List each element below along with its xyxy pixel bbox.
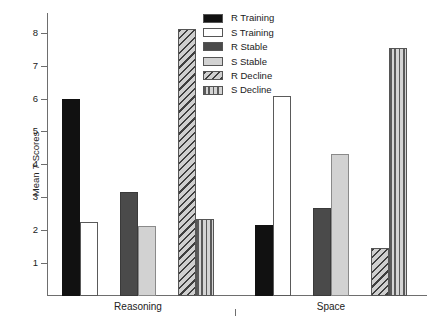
y-axis-tick-label-3: 3: [33, 193, 38, 203]
y-axis-tick-7: [41, 66, 47, 67]
bar-space-s-stable: [331, 154, 349, 296]
bar-space-r-training: [255, 225, 273, 296]
bar-space-r-decline: [371, 248, 389, 296]
y-axis-tick-label-5: 5: [33, 127, 38, 137]
bar-reasoning-r-training: [62, 99, 80, 296]
y-axis-tick-3: [41, 197, 47, 198]
legend-item-s-stable[interactable]: S Stable: [203, 54, 313, 68]
x-axis-group-label-reasoning: Reasoning: [114, 301, 162, 312]
legend-label: S Training: [231, 28, 274, 38]
bar-reasoning-s-training: [80, 222, 98, 296]
y-axis-tick-label-4: 4: [33, 160, 38, 170]
legend-item-r-decline[interactable]: R Decline: [203, 69, 313, 83]
bar-reasoning-r-decline: [178, 29, 196, 296]
legend-item-r-stable[interactable]: R Stable: [203, 40, 313, 54]
legend: R TrainingS TrainingR StableS StableR De…: [203, 11, 313, 97]
bar-reasoning-r-stable: [120, 192, 138, 296]
bar-space-s-decline: [389, 48, 407, 296]
legend-label: S Decline: [231, 85, 272, 95]
legend-item-r-training[interactable]: R Training: [203, 11, 313, 25]
y-axis-tick-6: [41, 99, 47, 100]
legend-swatch-solid-black-icon: [203, 14, 223, 23]
legend-label: S Stable: [231, 57, 267, 67]
y-axis-tick-4: [41, 164, 47, 165]
y-axis-tick-label-2: 2: [33, 225, 38, 235]
legend-label: R Stable: [231, 42, 267, 52]
bar-space-s-training: [273, 96, 291, 296]
bar-chart-figure: Mean T Scores 12345678 R TrainingS Train…: [0, 0, 436, 328]
bar-reasoning-s-stable: [138, 226, 156, 296]
x-axis-group-label-space: Space: [317, 301, 345, 312]
y-axis-tick-label-1: 1: [33, 258, 38, 268]
x-axis-group-divider-tick: [235, 309, 236, 316]
legend-item-s-decline[interactable]: S Decline: [203, 83, 313, 97]
legend-label: R Training: [231, 13, 274, 23]
legend-label: R Decline: [231, 71, 272, 81]
y-axis-tick-label-6: 6: [33, 94, 38, 104]
legend-swatch-diag-hatch-icon: [203, 71, 223, 80]
y-axis-tick-label-8: 8: [33, 28, 38, 38]
legend-swatch-white-icon: [203, 28, 223, 37]
y-axis-tick-1: [41, 263, 47, 264]
y-axis-tick-5: [41, 131, 47, 132]
y-axis-tick-label-7: 7: [33, 61, 38, 71]
legend-item-s-training[interactable]: S Training: [203, 25, 313, 39]
bar-reasoning-s-decline: [196, 219, 214, 296]
y-axis-tick-8: [41, 33, 47, 34]
legend-swatch-light-gray-icon: [203, 57, 223, 66]
y-axis-tick-2: [41, 230, 47, 231]
bar-space-r-stable: [313, 208, 331, 296]
legend-swatch-vert-stripe-icon: [203, 86, 223, 95]
legend-swatch-dark-gray-icon: [203, 42, 223, 51]
